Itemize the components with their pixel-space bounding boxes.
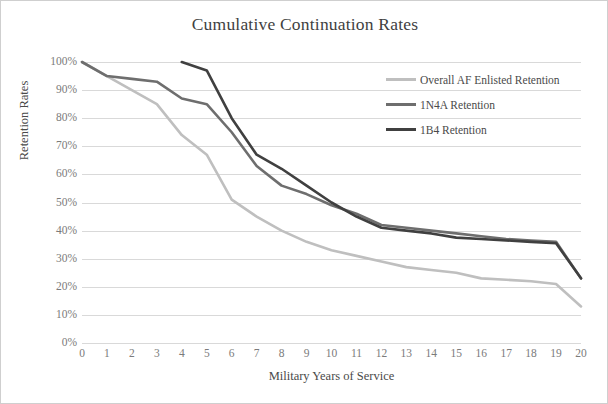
legend-swatch-icon (386, 103, 416, 106)
y-axis-tick-label: 50% (31, 197, 77, 209)
legend-swatch-icon (386, 78, 416, 81)
x-axis-tick-labels: 01234567891011121314151617181920 (82, 348, 581, 364)
y-axis-tick-label: 0% (31, 337, 77, 349)
chart-container: Cumulative Continuation Rates Retention … (0, 0, 608, 404)
legend-item[interactable]: 1N4A Retention (386, 92, 601, 117)
legend-label: Overall AF Enlisted Retention (420, 74, 560, 86)
y-axis-tick-label: 40% (31, 225, 77, 237)
legend-swatch-icon (386, 128, 416, 131)
y-axis-tick-label: 80% (31, 112, 77, 124)
legend-label: 1B4 Retention (420, 124, 487, 136)
y-axis-tick-label: 100% (31, 56, 77, 68)
chart-title: Cumulative Continuation Rates (1, 14, 608, 35)
y-axis-tick-label: 90% (31, 84, 77, 96)
y-axis-tick-label: 60% (31, 168, 77, 180)
y-axis-tick-labels: 100%90%80%70%60%50%40%30%20%10%0% (27, 62, 77, 343)
gridline (82, 343, 581, 344)
y-axis-tick-label: 10% (31, 309, 77, 321)
legend-item[interactable]: Overall AF Enlisted Retention (386, 67, 601, 92)
y-axis-tick-label: 70% (31, 140, 77, 152)
legend-label: 1N4A Retention (420, 99, 495, 111)
legend-item[interactable]: 1B4 Retention (386, 117, 601, 142)
y-axis-tick-label: 20% (31, 281, 77, 293)
x-axis-tick-label: 20 (566, 348, 596, 360)
chart-legend: Overall AF Enlisted Retention1N4A Retent… (386, 67, 601, 142)
x-axis-title: Military Years of Service (82, 369, 581, 384)
y-axis-tick-label: 30% (31, 253, 77, 265)
